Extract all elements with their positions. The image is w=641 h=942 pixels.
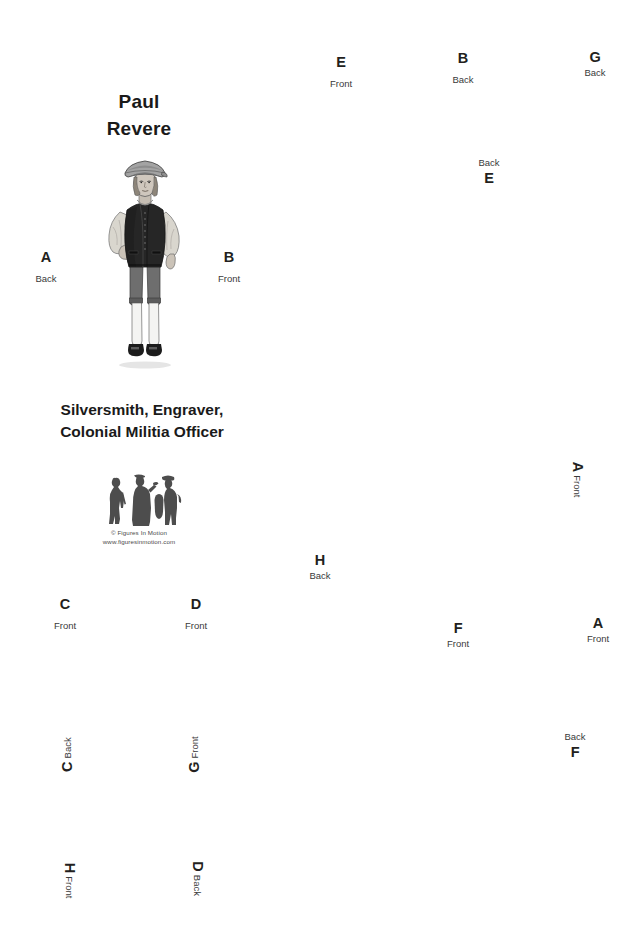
marker-side: Back: [453, 75, 474, 85]
marker-side: Back: [310, 571, 331, 581]
marker-letter: H: [62, 862, 77, 872]
marker-side: Back: [62, 737, 72, 758]
marker-side: Back: [565, 732, 586, 742]
marker-f-back-right: BackF: [565, 732, 586, 761]
page-title: Paul Revere: [68, 88, 210, 142]
marker-a-back-left: ABack: [36, 250, 57, 284]
marker-side: Front: [185, 621, 207, 631]
marker-side: Front: [330, 79, 352, 89]
marker-side: Front: [447, 639, 469, 649]
marker-side: Back: [479, 158, 500, 168]
marker-side: Front: [189, 736, 199, 758]
marker-letter: G: [187, 761, 202, 772]
marker-h-front-rot: HFront: [62, 862, 77, 898]
marker-letter: F: [447, 621, 469, 636]
marker-letter: E: [330, 55, 352, 70]
marker-letter: C: [54, 597, 76, 612]
marker-f-front-low: FFront: [447, 621, 469, 649]
marker-b-back-top: BBack: [453, 51, 474, 85]
marker-letter: C: [59, 761, 74, 771]
marker-side: Front: [65, 876, 75, 898]
marker-side: Front: [218, 274, 240, 284]
marker-letter: E: [479, 171, 500, 186]
marker-c-back-rot: CBack: [59, 737, 74, 772]
paul-revere-figure-illustration: [96, 155, 194, 370]
marker-a-front-low: AFront: [587, 616, 609, 644]
marker-e-back-mid: BackE: [479, 158, 500, 187]
marker-letter: A: [36, 250, 57, 265]
marker-d-back-rot: DBack: [189, 861, 204, 896]
marker-side: Front: [54, 621, 76, 631]
figures-in-motion-logo: © Figures In Motion www.figuresinmotion.…: [84, 474, 194, 546]
marker-d-front-low: DFront: [185, 597, 207, 631]
marker-side: Back: [192, 874, 202, 895]
figure-sheet-page: Paul Revere: [0, 0, 641, 942]
marker-letter: F: [565, 745, 586, 760]
marker-letter: A: [587, 616, 609, 631]
marker-letter: B: [218, 250, 240, 265]
marker-side: Back: [585, 68, 606, 78]
marker-h-back-mid: HBack: [310, 553, 331, 581]
page-subtitle: Silversmith, Engraver, Colonial Militia …: [22, 399, 262, 443]
marker-c-front-low: CFront: [54, 597, 76, 631]
logo-website: www.figuresinmotion.com: [84, 537, 194, 546]
marker-letter: H: [310, 553, 331, 568]
marker-letter: D: [189, 861, 204, 871]
marker-side: Front: [573, 475, 583, 497]
logo-copyright: © Figures In Motion: [84, 528, 194, 537]
marker-letter: A: [570, 461, 585, 471]
marker-e-front-top: EFront: [330, 55, 352, 89]
marker-a-front-right: AFront: [570, 461, 585, 497]
marker-g-front-rot: GFront: [187, 736, 202, 772]
marker-g-back-top: GBack: [585, 50, 606, 78]
marker-letter: G: [585, 50, 606, 65]
marker-letter: D: [185, 597, 207, 612]
marker-b-front-left: BFront: [218, 250, 240, 284]
marker-letter: B: [453, 51, 474, 66]
marker-side: Back: [36, 274, 57, 284]
three-figures-silhouette-icon: [93, 474, 185, 528]
marker-side: Front: [587, 634, 609, 644]
